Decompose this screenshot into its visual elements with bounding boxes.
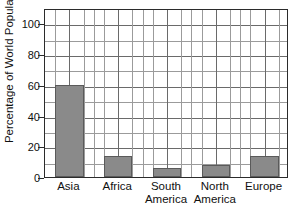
x-tick-label-line: America [190, 193, 239, 206]
y-tick-mark [38, 24, 44, 25]
x-tick-label-south-america: SouthAmerica [142, 180, 191, 206]
x-tick-label-line: Asia [57, 180, 79, 192]
bar-europe [250, 156, 278, 178]
y-tick-label: 60 [16, 81, 40, 91]
y-tick-label: 20 [16, 142, 40, 152]
y-tick-mark [38, 117, 44, 118]
bar-south-america [153, 168, 181, 177]
x-tick-label-europe: Europe [239, 180, 288, 193]
y-tick-mark [38, 178, 44, 179]
y-axis-tick-labels: 020406080100 [14, 0, 40, 210]
gridline-vertical [250, 10, 251, 177]
x-tick-label-line: Africa [102, 180, 131, 192]
x-tick-label-line: North [201, 180, 229, 192]
y-tick-label: 40 [16, 112, 40, 122]
gridline-vertical [265, 10, 266, 177]
y-tick-label: 0 [16, 173, 40, 183]
gridline-vertical [191, 10, 192, 177]
gridline-vertical [240, 10, 241, 177]
gridline-vertical [181, 10, 182, 177]
bar-chart: Percentage of World Population 020406080… [0, 0, 299, 210]
x-tick-label-africa: Africa [93, 180, 142, 193]
bar-africa [104, 156, 132, 178]
y-tick-mark [38, 55, 44, 56]
gridline-vertical [94, 10, 95, 177]
x-tick-label-line: South [151, 180, 181, 192]
y-tick-label: 80 [16, 50, 40, 60]
gridline-vertical [132, 10, 133, 177]
gridline-vertical [104, 10, 105, 177]
gridline-vertical [216, 10, 217, 177]
gridline-vertical [153, 10, 154, 177]
gridline-vertical [167, 10, 168, 177]
gridline-vertical [143, 10, 144, 177]
y-tick-mark [38, 147, 44, 148]
x-tick-label-line: Europe [245, 180, 282, 192]
gridline-vertical [279, 10, 280, 177]
gridline-vertical [118, 10, 119, 177]
plot-area [44, 9, 288, 178]
x-tick-label-asia: Asia [44, 180, 93, 193]
gridline-vertical [202, 10, 203, 177]
bar-north-america [202, 165, 230, 177]
y-tick-mark [38, 86, 44, 87]
y-tick-label: 100 [16, 19, 40, 29]
x-axis-tick-labels: AsiaAfricaSouthAmericaNorthAmericaEurope [44, 180, 288, 210]
gridline-vertical [230, 10, 231, 177]
x-tick-label-north-america: NorthAmerica [190, 180, 239, 206]
x-tick-label-line: America [142, 193, 191, 206]
bar-asia [55, 85, 83, 177]
gridline-vertical [84, 10, 85, 177]
